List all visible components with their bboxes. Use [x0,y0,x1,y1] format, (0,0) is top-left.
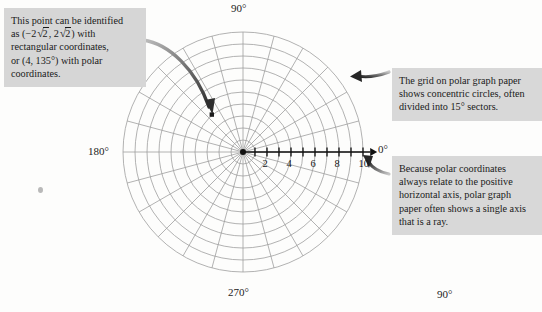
grid-radial-line [139,92,243,152]
grid-radial-line [243,121,359,152]
angle-label-90-top: 90° [231,2,246,14]
axis-tick-label: 2 [263,158,268,169]
axis-tick-label: 6 [311,158,316,169]
axis-tick-label: 10 [359,158,370,169]
curved-arrow-to-plotted-point-head [205,98,215,115]
grid-radial-line [243,152,303,256]
caption-point: This point can be identified as (−2√2, 2… [4,8,146,87]
grid-radial-line [243,152,274,268]
caption-point-line2-mid: , 2 [49,28,59,39]
polar-axis-ray [240,148,377,157]
caption-point-line4: or (4, 135°) with polar [11,54,138,67]
radicand-2: 2 [65,27,71,39]
radicand-1: 2 [43,27,49,39]
page-smudge [38,187,43,193]
grid-radial-line [243,152,347,212]
axis-arrowhead [370,148,377,156]
caption-point-line5: coordinates. [11,67,138,80]
axis-tick-label: 4 [287,158,292,169]
curved-arrow-to-grid [358,72,389,77]
sqrt-symbol-2: √2 [59,27,71,40]
pole-origin-dot [240,149,246,155]
plotted-point [210,112,214,116]
grid-radial-line [212,36,243,152]
angle-label-180: 180° [88,145,109,157]
grid-radial-line [243,36,274,152]
grid-radial-line [212,152,243,268]
curved-arrow-to-grid-head [350,70,362,82]
caption-point-line1: This point can be identified [11,14,138,27]
grid-radial-line [139,152,243,212]
annotation-arrows [143,40,389,174]
curved-arrow-to-axis-ray [368,161,389,174]
caption-point-line2-suffix: ) with [71,28,95,39]
grid-radial-line [243,92,347,152]
grid-radial-line [127,121,243,152]
caption-point-line3: rectangular coordinates, [11,40,138,53]
caption-point-line2: as (−2√2, 2√2) with [11,27,138,40]
angle-label-0: 0° [378,143,388,155]
caption-grid: The grid on polar graph paper shows conc… [392,68,542,121]
curved-arrow-to-plotted-point [143,40,209,107]
polar-graph-figure-page: This point can be identified as (−2√2, 2… [0,0,542,312]
grid-radial-line [243,152,359,183]
angle-label-270: 270° [228,286,249,298]
angle-label-90-bottom-right: 90° [437,288,452,300]
grid-radial-line [183,152,243,256]
grid-radial-line [127,152,243,183]
grid-radial-line [243,48,303,152]
caption-point-line2-prefix: as (−2 [11,28,36,39]
axis-tick-label: 8 [335,158,340,169]
caption-ray: Because polar coordinates always relate … [392,156,542,235]
sqrt-symbol-1: √2 [36,27,48,40]
